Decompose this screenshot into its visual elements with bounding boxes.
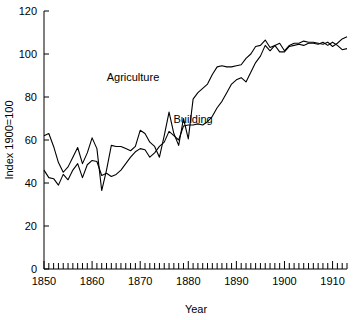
x-tick-label: 1900 [272, 275, 296, 287]
y-tick-label: 100 [19, 48, 37, 60]
y-axis-ticks [44, 11, 49, 269]
y-tick-label: 60 [25, 134, 37, 146]
x-tick-label: 1910 [320, 275, 344, 287]
series-annotation-building: Building [174, 113, 213, 125]
x-tick-label: 1860 [80, 275, 104, 287]
y-axis-tick-labels: 020406080100120 [19, 5, 37, 275]
y-tick-label: 120 [19, 5, 37, 17]
x-axis-tick-labels: 1850186018701880189019001910 [32, 275, 345, 287]
y-tick-label: 40 [25, 177, 37, 189]
x-tick-label: 1880 [176, 275, 200, 287]
x-axis-title: Year [185, 303, 208, 315]
y-tick-label: 80 [25, 91, 37, 103]
line-chart: 020406080100120 185018601870188018901900… [0, 0, 354, 320]
x-tick-label: 1890 [224, 275, 248, 287]
x-tick-label: 1870 [128, 275, 152, 287]
y-tick-label: 20 [25, 220, 37, 232]
x-axis-minor-ticks [44, 261, 347, 269]
series-annotation-agriculture: Agriculture [107, 71, 160, 83]
y-tick-label: 0 [31, 263, 37, 275]
chart-container: 020406080100120 185018601870188018901900… [0, 0, 354, 320]
x-tick-label: 1850 [32, 275, 56, 287]
y-axis-title: Index 1900=100 [3, 100, 15, 179]
